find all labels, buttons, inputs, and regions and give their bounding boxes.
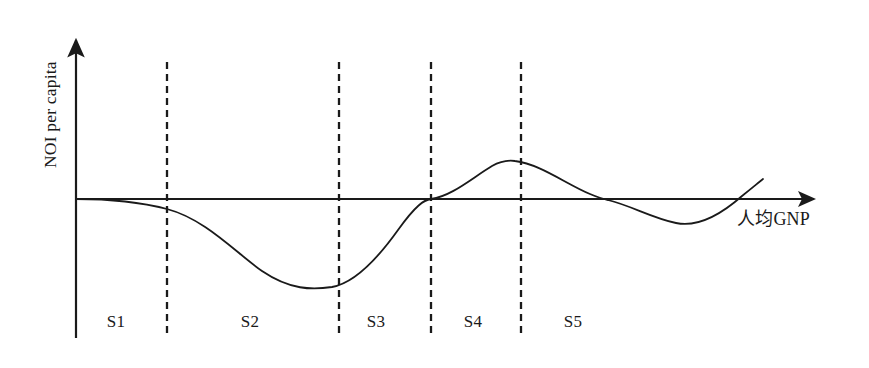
x-axis-label: 人均GNP [737, 210, 810, 228]
noi-curve [76, 161, 763, 289]
stage-label-s5: S5 [557, 313, 589, 330]
stage-label-s3: S3 [360, 313, 392, 330]
stage-label-s4: S4 [457, 313, 489, 330]
y-axis-label: NOI per capita [42, 61, 60, 168]
chart-figure: NOI per capita 人均GNP S1 S2 S3 S4 S5 [0, 0, 869, 368]
stage-label-s1: S1 [100, 313, 132, 330]
stage-label-s2: S2 [234, 313, 266, 330]
